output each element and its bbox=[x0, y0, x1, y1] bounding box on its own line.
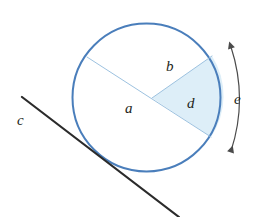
label-d: d bbox=[187, 96, 195, 111]
label-b: b bbox=[166, 59, 174, 74]
label-c: c bbox=[17, 113, 24, 128]
label-e: e bbox=[234, 92, 241, 107]
label-a: a bbox=[125, 101, 133, 116]
tangent-line-c bbox=[22, 97, 179, 217]
diagram-canvas: a b c d e bbox=[0, 0, 259, 217]
